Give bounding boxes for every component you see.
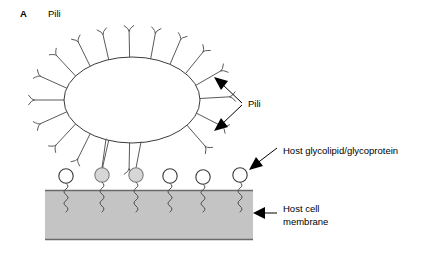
- panel-title: Pili: [48, 8, 61, 19]
- figure-root: A Pili Pili Host glycolipid/glycoprotein: [0, 0, 440, 259]
- bacterial-cell-body: [64, 57, 200, 143]
- membrane-callout-label-line2: membrane: [283, 216, 328, 227]
- membrane-body: [45, 190, 253, 240]
- receptor-head: [163, 169, 177, 183]
- receptor-head: [129, 168, 143, 182]
- pili-callout-label: Pili: [248, 98, 261, 109]
- receptor-head: [59, 169, 73, 183]
- host-cell-membrane: [45, 190, 253, 240]
- panel-letter: A: [20, 8, 27, 19]
- receptor-head: [196, 170, 210, 184]
- pili-adhesion-diagram: A Pili Pili Host glycolipid/glycoprotein: [0, 0, 440, 259]
- receptor-head: [233, 168, 247, 182]
- membrane-callout-label-line1: Host cell: [283, 203, 319, 214]
- receptor-head: [95, 168, 109, 182]
- glycolipid-callout-label: Host glycolipid/glycoprotein: [283, 145, 398, 156]
